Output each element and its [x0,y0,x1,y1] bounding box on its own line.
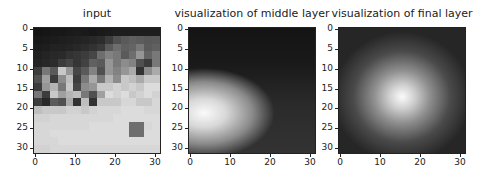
pixel [113,114,121,122]
pixel [152,106,160,114]
y-tick-label: 5 [8,43,28,53]
pixel [97,51,105,59]
pixel [89,98,97,106]
x-tick [115,154,116,157]
pixel [81,122,89,130]
pixel [73,145,81,153]
pixel [58,106,66,114]
pixel [136,36,144,44]
pixel [136,28,144,36]
pixel [105,67,113,75]
pixel [129,83,137,91]
pixel [113,83,121,91]
pixel [81,106,89,114]
y-tick-label: 10 [313,63,333,73]
pixel [89,106,97,114]
pixel [89,145,97,153]
x-tick-label: 30 [454,157,465,167]
pixel [144,67,152,75]
y-tick [30,108,33,109]
pixel [129,98,137,106]
pixel [50,145,58,153]
pixel [50,106,58,114]
y-tick-label: 30 [313,142,333,152]
y-tick [185,69,188,70]
pixel [73,59,81,67]
pixel [113,51,121,59]
pixel [34,83,42,91]
pixel [42,59,50,67]
pixel [66,98,74,106]
pixel [66,114,74,122]
pixel [73,114,81,122]
pixel [144,130,152,138]
x-tick [155,154,156,157]
pixel [42,83,50,91]
y-tick-label: 10 [163,63,183,73]
pixel [42,67,50,75]
pixel [73,130,81,138]
pixel [81,137,89,145]
pixel [152,28,160,36]
pixel [136,75,144,83]
x-tick-label: 0 [337,157,343,167]
pixel [34,59,42,67]
pixel [58,130,66,138]
pixel [136,114,144,122]
x-tick [270,154,271,157]
x-tick-label: 20 [264,157,275,167]
pixel [50,130,58,138]
pixel [97,91,105,99]
pixel [113,98,121,106]
pixel [136,51,144,59]
pixel [66,122,74,130]
x-tick-label: 0 [32,157,38,167]
y-tick [30,128,33,129]
pixel [152,75,160,83]
pixel [136,122,144,130]
pixel [105,75,113,83]
pixel [144,122,152,130]
pixel [105,44,113,52]
pixel [34,98,42,106]
pixel [105,51,113,59]
pixel [129,91,137,99]
pixel [66,59,74,67]
pixel [66,44,74,52]
pixel [152,59,160,67]
pixel [152,44,160,52]
pixel [152,36,160,44]
y-tick [335,108,338,109]
pixel [66,83,74,91]
pixel [89,28,97,36]
pixel [113,137,121,145]
pixel [81,91,89,99]
y-tick [185,148,188,149]
x-tick [230,154,231,157]
pixel [58,122,66,130]
pixel [50,36,58,44]
pixel [136,137,144,145]
x-tick [340,154,341,157]
pixel [73,67,81,75]
pixel [73,106,81,114]
y-tick [335,49,338,50]
pixel [97,114,105,122]
pixel [113,130,121,138]
pixel [121,28,129,36]
pixel [50,137,58,145]
pixel [121,98,129,106]
pixel [152,137,160,145]
pixel [73,98,81,106]
pixel [113,75,121,83]
pixel [144,28,152,36]
pixel [66,137,74,145]
pixel [129,36,137,44]
pixel [97,59,105,67]
pixel [144,91,152,99]
pixel [34,114,42,122]
pixel [144,83,152,91]
pixel [50,59,58,67]
pixel [97,122,105,130]
y-tick-label: 20 [8,102,28,112]
